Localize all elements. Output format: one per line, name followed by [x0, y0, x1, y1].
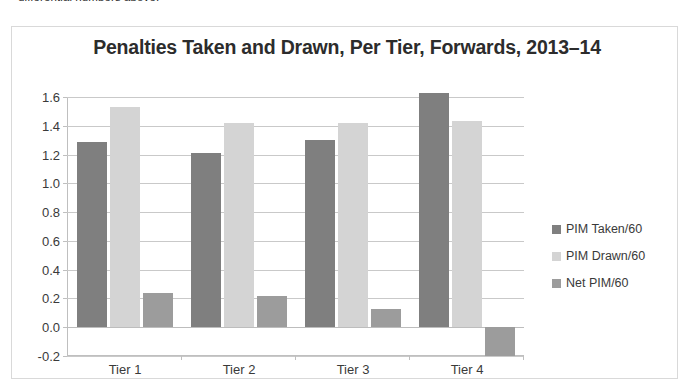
y-tick-label: 1.4	[42, 118, 60, 133]
bar-pim-taken-60-tier-3[interactable]	[305, 140, 335, 327]
x-tick-mark	[295, 356, 296, 360]
y-tick-label: -0.2	[38, 349, 60, 364]
chart-title: Penalties Taken and Drawn, Per Tier, For…	[52, 35, 642, 61]
chart-container: Penalties Taken and Drawn, Per Tier, For…	[11, 26, 678, 379]
y-tick-label: 0.0	[42, 320, 60, 335]
legend-label: PIM Drawn/60	[566, 249, 645, 263]
bar-pim-drawn-60-tier-2[interactable]	[224, 123, 254, 327]
bar-group-tier-4: Tier 4	[410, 97, 524, 356]
y-tick-mark	[63, 327, 67, 328]
y-tick-label: 1.2	[42, 147, 60, 162]
legend-item-pim-taken-60[interactable]: PIM Taken/60	[552, 222, 645, 236]
bar-pim-taken-60-tier-2[interactable]	[191, 153, 221, 327]
x-tick-label: Tier 2	[182, 362, 296, 377]
legend-label: PIM Taken/60	[566, 222, 642, 236]
bar-group-tier-2: Tier 2	[182, 97, 296, 356]
y-tick-mark	[63, 183, 67, 184]
bars	[296, 97, 410, 356]
bar-net-pim-60-tier-1[interactable]	[143, 293, 173, 328]
bar-net-pim-60-tier-3[interactable]	[371, 309, 401, 328]
page-text-fragment: differential numbers above.	[18, 0, 159, 5]
y-tick-label: 1.6	[42, 90, 60, 105]
plot-area: 1.61.41.21.00.80.60.40.20.0-0.2 Tier 1Ti…	[67, 97, 524, 356]
y-tick-label: 1.0	[42, 176, 60, 191]
y-tick-mark	[63, 241, 67, 242]
legend-swatch-icon	[552, 279, 561, 288]
legend-label: Net PIM/60	[566, 276, 629, 290]
bars	[68, 97, 182, 356]
x-tick-mark	[523, 356, 524, 360]
legend-swatch-icon	[552, 252, 561, 261]
chart-legend: PIM Taken/60PIM Drawn/60Net PIM/60	[552, 222, 645, 303]
bar-group-tier-1: Tier 1	[68, 97, 182, 356]
y-tick-label: 0.6	[42, 233, 60, 248]
bar-net-pim-60-tier-2[interactable]	[257, 296, 287, 328]
y-tick-mark	[63, 212, 67, 213]
x-tick-label: Tier 3	[296, 362, 410, 377]
x-tick-label: Tier 4	[410, 362, 524, 377]
bar-pim-taken-60-tier-4[interactable]	[419, 93, 449, 328]
bar-net-pim-60-tier-4[interactable]	[485, 327, 515, 356]
y-tick-mark	[63, 155, 67, 156]
legend-item-net-pim-60[interactable]: Net PIM/60	[552, 276, 645, 290]
x-tick-mark	[181, 356, 182, 360]
bar-pim-drawn-60-tier-3[interactable]	[338, 123, 368, 327]
legend-item-pim-drawn-60[interactable]: PIM Drawn/60	[552, 249, 645, 263]
bar-groups: Tier 1Tier 2Tier 3Tier 4	[68, 97, 524, 356]
bars	[182, 97, 296, 356]
y-tick-label: 0.2	[42, 291, 60, 306]
x-tick-label: Tier 1	[68, 362, 182, 377]
bar-pim-drawn-60-tier-4[interactable]	[452, 121, 482, 327]
y-tick-label: 0.4	[42, 262, 60, 277]
y-tick-mark	[63, 97, 67, 98]
bar-pim-drawn-60-tier-1[interactable]	[110, 107, 140, 327]
legend-swatch-icon	[552, 225, 561, 234]
bar-group-tier-3: Tier 3	[296, 97, 410, 356]
bar-pim-taken-60-tier-1[interactable]	[77, 142, 107, 328]
x-tick-mark	[409, 356, 410, 360]
bars	[410, 97, 524, 356]
y-tick-label: 0.8	[42, 205, 60, 220]
y-tick-mark	[63, 126, 67, 127]
y-tick-mark	[63, 270, 67, 271]
y-tick-mark	[63, 356, 67, 357]
y-tick-mark	[63, 298, 67, 299]
